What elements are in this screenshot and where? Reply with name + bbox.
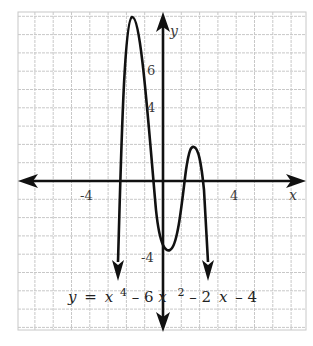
y-axis-label: y — [169, 23, 179, 39]
function-graph: -4 4 6 4 -4 x y y = x 4 – 6 x 2 – 2 x – … — [0, 0, 313, 346]
x-tick-label-4: 4 — [230, 188, 238, 203]
curve-left-arrow-icon — [112, 260, 124, 281]
y-axis — [156, 12, 170, 332]
curve-right-arrow-icon — [202, 260, 214, 281]
y-tick-label-6: 6 — [147, 63, 155, 78]
y-tick-label-neg4: -4 — [141, 250, 154, 265]
x-tick-label-neg4: -4 — [80, 188, 93, 203]
y-tick-label-4: 4 — [147, 100, 155, 115]
x-axis-label: x — [289, 187, 297, 203]
